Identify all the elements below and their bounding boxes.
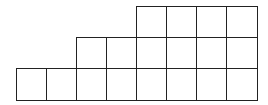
grid-cell [46, 68, 78, 101]
grid-cell [136, 37, 168, 70]
staircase-grid-diagram [0, 0, 268, 105]
grid-cell [166, 6, 198, 39]
grid-cell [226, 37, 258, 70]
grid-cell [76, 37, 108, 70]
grid-cell [136, 6, 168, 39]
grid-cell [196, 68, 228, 101]
grid-cell [196, 37, 228, 70]
grid-cell [136, 68, 168, 101]
grid-cell [226, 68, 258, 101]
grid-cell [166, 68, 198, 101]
grid-cell [166, 37, 198, 70]
grid-cell [76, 68, 108, 101]
grid-cell [106, 68, 138, 101]
grid-cell [16, 68, 48, 101]
grid-cell [226, 6, 258, 39]
grid-cell [106, 37, 138, 70]
grid-cell [196, 6, 228, 39]
